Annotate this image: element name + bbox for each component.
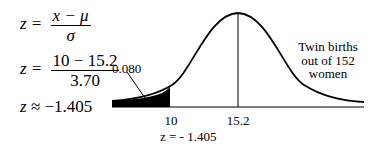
x-tick-10: 10 bbox=[165, 114, 178, 127]
z-score-label: z = - 1.405 bbox=[160, 130, 216, 143]
curve-label-line-3: women bbox=[288, 67, 368, 81]
curve-description: Twin births out of 152 women bbox=[288, 40, 368, 81]
shaded-area-label: 0.080 bbox=[112, 62, 141, 75]
z-score-text: z = - 1.405 bbox=[160, 129, 216, 144]
x-tick-15-2: 15.2 bbox=[227, 114, 250, 127]
curve-label-line-2: out of 152 bbox=[288, 54, 368, 68]
curve-label-line-1: Twin births bbox=[288, 40, 368, 54]
